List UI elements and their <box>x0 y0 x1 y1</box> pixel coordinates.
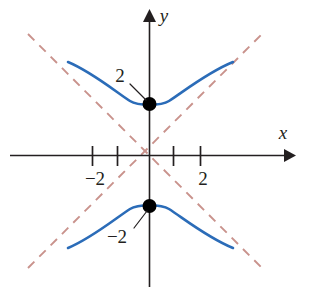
x-tick-label-neg2: −2 <box>85 168 105 189</box>
figure-canvas: 2 −2 −2 2 x y <box>0 0 310 292</box>
upper-vertex-leader-line <box>130 84 146 100</box>
x-axis-label: x <box>278 122 288 143</box>
upper-vertex-label: 2 <box>115 65 125 86</box>
y-axis-arrow-icon <box>143 9 156 22</box>
y-axis-label: y <box>158 5 169 26</box>
x-tick-label-pos2: 2 <box>198 168 208 189</box>
axes-group <box>10 9 296 287</box>
lower-vertex-label: −2 <box>107 226 127 247</box>
lower-vertex-leader-line <box>134 211 147 228</box>
text-labels-group: 2 −2 −2 2 x y <box>85 5 288 247</box>
hyperbola-figure: 2 −2 −2 2 x y <box>0 0 310 292</box>
x-axis-arrow-icon <box>284 149 296 162</box>
asymptotes-group <box>28 34 262 268</box>
lower-vertex-dot <box>143 199 157 213</box>
